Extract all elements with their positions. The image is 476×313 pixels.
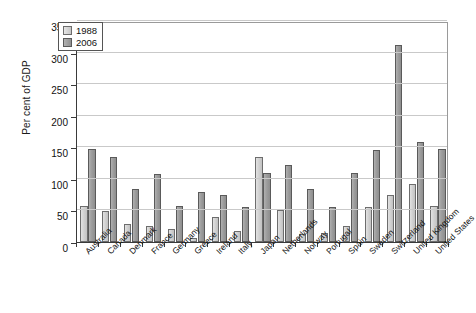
gridline — [77, 115, 447, 116]
legend-item-1988: 1988 — [63, 26, 97, 36]
bar-2006-sweden — [373, 150, 380, 242]
legend-label-2006: 2006 — [76, 38, 97, 48]
bar-2006-switzerland — [395, 45, 402, 242]
x-axis-labels: AustraliaCanadaDenmarkFranceGermanyGreec… — [0, 243, 468, 313]
legend-label-1988: 1988 — [76, 26, 97, 36]
legend-item-2006: 2006 — [63, 38, 97, 48]
legend-swatch-2006 — [63, 38, 72, 47]
bar-2006-australia — [88, 149, 95, 242]
bar-2006-greece — [198, 192, 205, 242]
bar-2006-canada — [110, 157, 117, 242]
gridline — [77, 146, 447, 147]
bar-2006-italy — [242, 207, 249, 242]
bar-1988-australia — [80, 206, 87, 242]
gridline — [77, 52, 447, 53]
gridline — [77, 20, 447, 21]
gridline — [77, 83, 447, 84]
plot-area — [76, 22, 448, 243]
gridline — [77, 209, 447, 210]
chart-legend: 1988 2006 — [58, 22, 103, 51]
gridline — [77, 178, 447, 179]
bar-1988-japan — [255, 157, 262, 242]
bar-2006-ireland — [220, 195, 227, 242]
legend-swatch-1988 — [63, 26, 72, 35]
bar-2006-netherlands — [285, 165, 292, 242]
y-axis-ticks: 050100150200250300350 — [0, 22, 76, 243]
bar-2006-japan — [263, 173, 270, 242]
